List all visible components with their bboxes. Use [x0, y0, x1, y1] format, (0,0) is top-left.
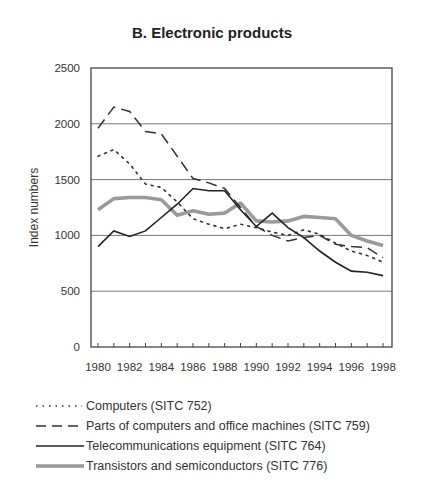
x-tick-label: 1996	[339, 361, 365, 373]
x-tick-label: 1998	[370, 361, 396, 373]
legend-label: Computers (SITC 752)	[86, 399, 212, 413]
y-tick-label: 500	[61, 285, 80, 297]
x-tick-label: 1984	[149, 361, 175, 373]
thick-gray-line-swatch-icon	[34, 461, 84, 471]
dotted-line-swatch-icon	[34, 401, 84, 411]
legend-label: Parts of computers and office machines (…	[86, 419, 370, 433]
y-tick-label: 0	[74, 341, 80, 353]
series-line	[98, 198, 383, 246]
legend-item-parts: Parts of computers and office machines (…	[34, 416, 370, 436]
legend-label: Telecommunications equipment (SITC 764)	[86, 439, 326, 453]
line-chart: 0500100015002000250019801982198419861988…	[0, 0, 424, 390]
y-tick-label: 1500	[54, 174, 80, 186]
y-axis-label: Index numbers	[27, 168, 41, 247]
x-tick-label: 1988	[212, 361, 238, 373]
solid-line-swatch-icon	[34, 441, 84, 451]
y-tick-label: 2000	[54, 118, 80, 130]
legend-item-transistors: Transistors and semiconductors (SITC 776…	[34, 456, 370, 476]
x-tick-label: 1982	[117, 361, 143, 373]
legend-label: Transistors and semiconductors (SITC 776…	[86, 459, 327, 473]
plot-frame	[91, 68, 392, 347]
y-tick-label: 2500	[54, 62, 80, 74]
x-tick-label: 1990	[244, 361, 270, 373]
x-tick-label: 1992	[275, 361, 301, 373]
x-tick-label: 1994	[307, 361, 333, 373]
legend-item-telecom: Telecommunications equipment (SITC 764)	[34, 436, 370, 456]
legend: Computers (SITC 752) Parts of computers …	[34, 396, 370, 476]
dashed-line-swatch-icon	[34, 421, 84, 431]
y-tick-label: 1000	[54, 229, 80, 241]
x-tick-label: 1986	[180, 361, 206, 373]
legend-item-computers: Computers (SITC 752)	[34, 396, 370, 416]
x-tick-label: 1980	[85, 361, 111, 373]
